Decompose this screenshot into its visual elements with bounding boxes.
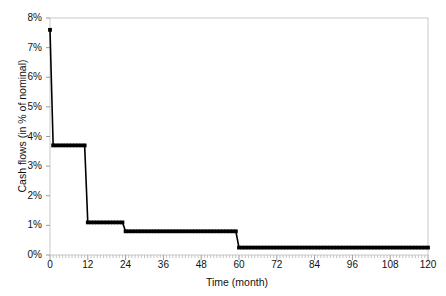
x-axis-title: Time (month) (46, 276, 428, 288)
x-tick-label: 72 (262, 259, 292, 270)
y-axis-ticks (46, 18, 50, 255)
x-tick-label: 96 (337, 259, 367, 270)
plot-frame-rect (50, 18, 428, 255)
data-point-marker (121, 221, 125, 225)
x-tick-label: 36 (148, 259, 178, 270)
x-tick-label: 0 (35, 259, 65, 270)
plot-frame (50, 18, 428, 255)
x-tick-label: 108 (375, 259, 405, 270)
x-tick-label: 84 (300, 259, 330, 270)
x-tick-label: 60 (224, 259, 254, 270)
x-tick-label: 120 (413, 259, 443, 270)
x-tick-label: 24 (111, 259, 141, 270)
x-tick-label: 48 (186, 259, 216, 270)
data-point-marker (426, 246, 430, 250)
plot-area (0, 0, 446, 296)
chart-figure: Cash flows (in % of nominal) 0%1%2%3%4%5… (0, 0, 446, 296)
data-point-marker (83, 143, 87, 147)
data-point-marker (234, 229, 238, 233)
x-tick-label: 12 (73, 259, 103, 270)
data-point-marker (48, 28, 52, 32)
